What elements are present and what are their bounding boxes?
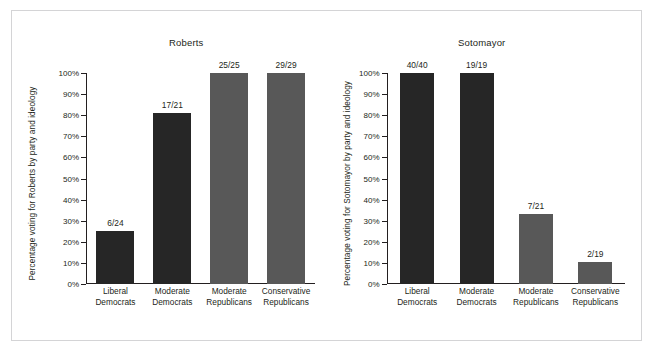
x-category-label: ModerateDemocrats — [447, 286, 506, 316]
x-category-label-line1: Conservative — [571, 286, 619, 296]
x-category-label-line2: Republicans — [566, 297, 625, 308]
y-tick-mark — [382, 136, 387, 137]
y-tick-mark — [81, 94, 86, 95]
figure-frame: Roberts Percentage voting for Roberts by… — [11, 10, 642, 341]
y-axis-title-roberts: Percentage voting for Roberts by party a… — [26, 67, 40, 299]
y-tick-label: 30% — [63, 216, 79, 225]
y-axis-title-sotomayor: Percentage voting for Sotomayor by party… — [341, 67, 355, 299]
y-tick-label: 10% — [363, 258, 379, 267]
bar-group-roberts: 6/2417/2125/2529/29 — [87, 73, 315, 284]
y-tick-label: 70% — [363, 132, 379, 141]
y-tick-label: 30% — [363, 216, 379, 225]
y-tick-mark — [382, 94, 387, 95]
y-tick-label: 40% — [363, 195, 379, 204]
x-category-label: ConservativeRepublicans — [258, 286, 315, 316]
bar-value-label: 6/24 — [107, 218, 123, 228]
y-tick-mark — [382, 221, 387, 222]
y-tick-label: 90% — [363, 90, 379, 99]
y-tick-label: 100% — [59, 69, 79, 78]
y-tick-label: 50% — [363, 174, 379, 183]
bar-slot: 17/21 — [144, 73, 201, 284]
x-category-label-line1: Liberal — [405, 286, 430, 296]
x-category-label-line2: Democrats — [144, 297, 201, 308]
y-tick-mark — [382, 73, 387, 74]
x-category-label: LiberalDemocrats — [87, 286, 144, 316]
bar-slot: 40/40 — [388, 73, 447, 284]
plot-area-sotomayor: 0%10%20%30%40%50%60%70%80%90%100% 40/401… — [387, 73, 626, 284]
y-tick-mark — [382, 115, 387, 116]
y-tick-mark — [81, 136, 86, 137]
y-tick-label: 10% — [63, 258, 79, 267]
bar-value-label: 7/21 — [528, 201, 544, 211]
y-tick-mark — [81, 284, 86, 285]
y-tick-label: 20% — [363, 237, 379, 246]
y-axis-title-text-roberts: Percentage voting for Roberts by party a… — [29, 86, 38, 280]
y-tick-mark — [382, 200, 387, 201]
bar-sotomayor-2[interactable]: 7/21 — [519, 214, 553, 284]
y-tick-label: 0% — [368, 280, 380, 289]
x-category-label-line2: Republicans — [258, 297, 315, 308]
x-category-labels-roberts: LiberalDemocratsModerateDemocratsModerat… — [87, 286, 315, 316]
bar-slot: 6/24 — [87, 73, 144, 284]
plot-area-roberts: 0%10%20%30%40%50%60%70%80%90%100% 6/2417… — [86, 73, 315, 284]
x-category-label: LiberalDemocrats — [388, 286, 447, 316]
bar-value-label: 29/29 — [276, 60, 297, 70]
x-category-label-line2: Democrats — [447, 297, 506, 308]
y-tick-mark — [81, 73, 86, 74]
y-tick-label: 80% — [363, 111, 379, 120]
bar-sotomayor-1[interactable]: 19/19 — [460, 73, 494, 284]
chart-title-sotomayor: Sotomayor — [327, 37, 642, 48]
y-tick-mark — [81, 179, 86, 180]
chart-panel-roberts: Roberts Percentage voting for Roberts by… — [12, 11, 327, 340]
y-tick-mark — [382, 157, 387, 158]
y-tick-label: 50% — [63, 174, 79, 183]
bar-roberts-3[interactable]: 29/29 — [267, 73, 305, 284]
bar-value-label: 40/40 — [407, 60, 428, 70]
y-tick-label: 40% — [63, 195, 79, 204]
bar-slot: 19/19 — [447, 73, 506, 284]
bar-roberts-0[interactable]: 6/24 — [96, 231, 134, 284]
y-tick-label: 80% — [63, 111, 79, 120]
y-tick-label: 70% — [63, 132, 79, 141]
bar-roberts-2[interactable]: 25/25 — [210, 73, 248, 284]
x-category-label-line2: Republicans — [506, 297, 565, 308]
y-tick-label: 60% — [63, 153, 79, 162]
bar-sotomayor-3[interactable]: 2/19 — [578, 262, 612, 284]
x-category-label: ConservativeRepublicans — [566, 286, 625, 316]
bar-slot: 7/21 — [506, 73, 565, 284]
bar-slot: 29/29 — [258, 73, 315, 284]
bar-value-label: 2/19 — [587, 249, 603, 259]
x-category-label-line1: Liberal — [103, 286, 128, 296]
bar-roberts-1[interactable]: 17/21 — [153, 113, 191, 284]
y-tick-mark — [382, 242, 387, 243]
x-category-label-line1: Moderate — [155, 286, 190, 296]
x-category-label-line1: Moderate — [459, 286, 494, 296]
bar-slot: 2/19 — [566, 73, 625, 284]
y-tick-mark — [81, 221, 86, 222]
x-category-label: ModerateRepublicans — [201, 286, 258, 316]
x-category-label-line1: Moderate — [212, 286, 247, 296]
x-category-label: ModerateDemocrats — [144, 286, 201, 316]
y-tick-label: 20% — [63, 237, 79, 246]
y-tick-mark — [382, 263, 387, 264]
x-category-label: ModerateRepublicans — [506, 286, 565, 316]
x-category-label-line2: Democrats — [87, 297, 144, 308]
bar-slot: 25/25 — [201, 73, 258, 284]
y-tick-label: 100% — [359, 69, 379, 78]
y-tick-mark — [81, 263, 86, 264]
y-tick-mark — [382, 179, 387, 180]
y-tick-mark — [81, 242, 86, 243]
y-tick-label: 0% — [67, 280, 79, 289]
bar-value-label: 25/25 — [219, 60, 240, 70]
chart-panel-sotomayor: Sotomayor Percentage voting for Sotomayo… — [327, 11, 642, 340]
y-axis-title-text-sotomayor: Percentage voting for Sotomayor by party… — [343, 80, 352, 285]
y-tick-mark — [81, 200, 86, 201]
x-category-label-line2: Republicans — [201, 297, 258, 308]
bar-value-label: 17/21 — [162, 100, 183, 110]
y-tick-mark — [81, 115, 86, 116]
bar-sotomayor-0[interactable]: 40/40 — [400, 73, 434, 284]
y-tick-label: 60% — [363, 153, 379, 162]
x-category-label-line2: Democrats — [388, 297, 447, 308]
x-category-label-line1: Conservative — [262, 286, 310, 296]
y-tick-mark — [382, 284, 387, 285]
